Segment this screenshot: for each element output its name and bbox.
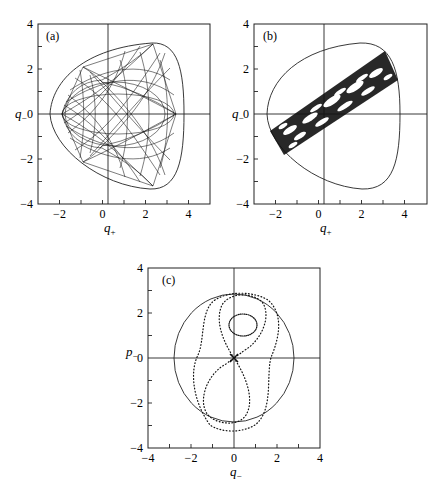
svg-text:2: 2	[359, 207, 365, 221]
panel-c: 4 2 0 −2 −4 −4 −2 0 2 4 (c) q− p−	[125, 261, 323, 481]
x-tick-labels: −4 −2 0 2 4	[142, 451, 323, 465]
svg-text:0: 0	[27, 107, 33, 121]
svg-text:−2: −2	[20, 152, 33, 166]
svg-text:0: 0	[243, 107, 249, 121]
svg-text:−2: −2	[269, 207, 282, 221]
svg-text:−2: −2	[185, 451, 198, 465]
svg-text:0: 0	[231, 451, 237, 465]
y-axis-label: p−	[125, 344, 138, 361]
svg-text:2: 2	[143, 207, 149, 221]
svg-text:2: 2	[274, 451, 280, 465]
panel-label: (a)	[46, 29, 59, 43]
x-tick-labels: −2 0 2 4	[53, 207, 191, 221]
svg-text:4: 4	[27, 17, 33, 31]
svg-text:−2: −2	[130, 396, 143, 410]
svg-text:0: 0	[100, 207, 106, 221]
svg-text:2: 2	[137, 306, 143, 320]
poincare-points	[194, 293, 279, 431]
svg-text:−2: −2	[53, 207, 66, 221]
ticks	[148, 291, 299, 449]
svg-text:4: 4	[317, 451, 323, 465]
y-axis-label: q−	[15, 106, 27, 123]
svg-text:4: 4	[186, 207, 192, 221]
svg-text:−4: −4	[20, 197, 33, 211]
boundary-curve	[50, 43, 184, 189]
panel-label: (b)	[263, 29, 277, 43]
x-tick-labels: −2 0 2 4	[269, 207, 407, 221]
svg-text:4: 4	[243, 17, 249, 31]
x-axis-label: q−	[230, 464, 242, 481]
svg-text:−4: −4	[236, 197, 249, 211]
y-axis-label: q−	[232, 106, 244, 123]
svg-text:4: 4	[137, 261, 143, 275]
trajectory	[270, 51, 398, 155]
panel-label: (c)	[162, 273, 175, 287]
x-axis-label: q+	[320, 220, 332, 237]
svg-text:−2: −2	[236, 152, 249, 166]
svg-text:4: 4	[402, 207, 408, 221]
svg-text:0: 0	[137, 351, 143, 365]
figure: 4 2 0 −2 −4 −2 0 2 4 (a) q+ q−	[0, 0, 441, 488]
panel-a: 4 2 0 −2 −4 −2 0 2 4 (a) q+ q−	[15, 17, 210, 237]
panel-b: 4 2 0 −2 −4 −2 0 2 4 (b) q+ q−	[232, 17, 427, 237]
svg-text:2: 2	[243, 62, 249, 76]
svg-text:−4: −4	[142, 451, 155, 465]
svg-text:0: 0	[316, 207, 322, 221]
x-axis-label: q+	[104, 220, 116, 237]
svg-text:2: 2	[27, 62, 33, 76]
